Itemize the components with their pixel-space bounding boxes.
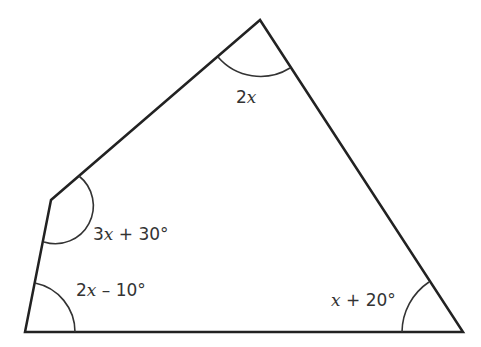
angle-arc-bottom-left	[35, 283, 75, 332]
angle-arc-top	[218, 57, 290, 76]
quadrilateral-diagram: 2x 3x + 30° 2x – 10° x + 20°	[0, 0, 481, 347]
angle-label-upper-left: 3x + 30°	[93, 224, 169, 244]
angle-label-top: 2x	[236, 87, 257, 107]
angle-arc-bottom-right	[402, 282, 429, 332]
angle-label-bottom-right: x + 20°	[331, 290, 396, 310]
angle-label-bottom-left: 2x – 10°	[76, 280, 146, 300]
